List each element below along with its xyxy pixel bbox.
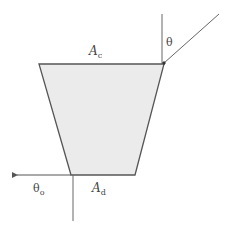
concentrator-diagram: Ac θ θo Ad	[0, 0, 235, 232]
label-output-angle: θo	[33, 182, 45, 197]
label-bottom-aperture: Ad	[91, 181, 106, 197]
label-input-angle: θ	[166, 36, 173, 49]
trapezoid-concentrator	[39, 64, 164, 175]
label-top-aperture: Ac	[88, 44, 103, 60]
